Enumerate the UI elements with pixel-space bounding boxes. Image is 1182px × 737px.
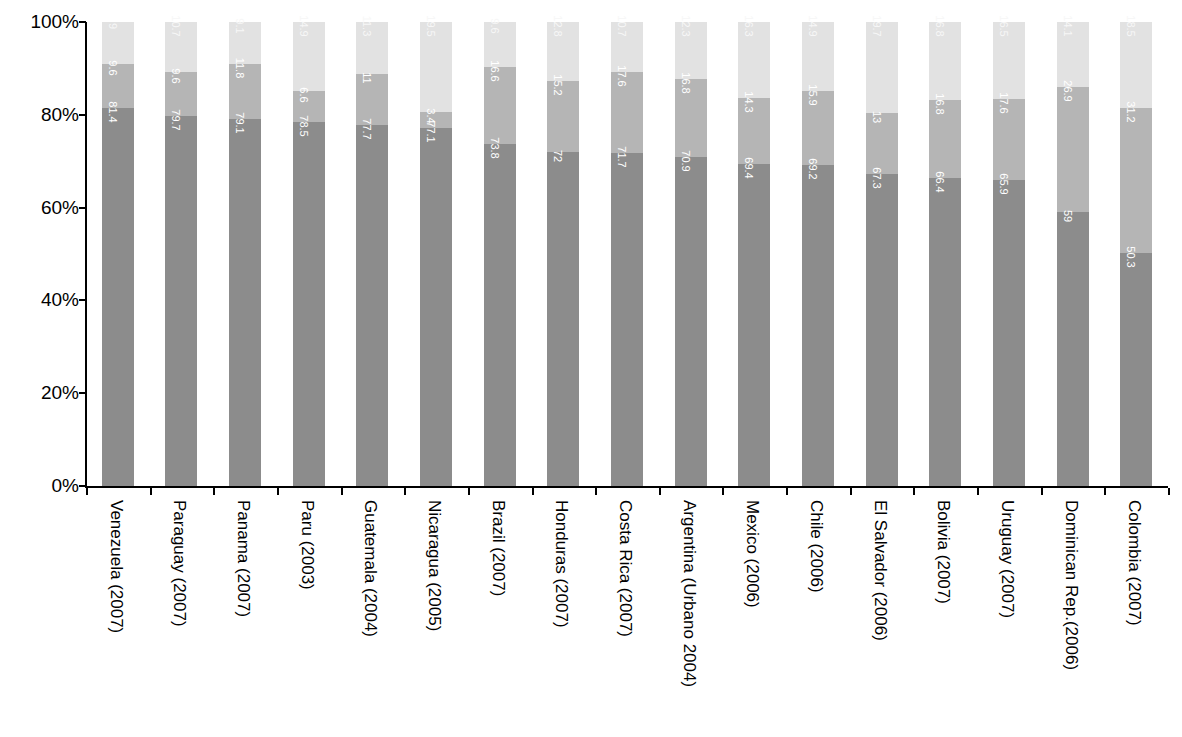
- bar-segment-value-label: 81.4: [107, 102, 118, 123]
- bar-segment[interactable]: 14.1: [1057, 22, 1089, 87]
- bar-segment[interactable]: 15.9: [802, 91, 834, 165]
- bar-9[interactable]: 10.717.671.7: [611, 22, 643, 486]
- bar-segment-value-label: 12.8: [552, 15, 563, 36]
- bar-segment[interactable]: 10.7: [165, 22, 197, 72]
- x-axis-category-label: Honduras (2007): [553, 500, 570, 628]
- bar-segment[interactable]: 14.9: [293, 22, 325, 91]
- bar-14[interactable]: 16.816.866.4: [929, 22, 961, 486]
- bar-segment[interactable]: 16.8: [929, 22, 961, 100]
- x-axis-category-label: Paraguay (2007): [171, 500, 188, 627]
- bar-12[interactable]: 14.915.969.2: [802, 22, 834, 486]
- bar-segment-value-label: 14.9: [298, 15, 309, 36]
- bar-10[interactable]: 12.316.870.9: [675, 22, 707, 486]
- bar-segment-value-label: 16.8: [934, 15, 945, 36]
- bar-segment[interactable]: 77.7: [356, 125, 388, 486]
- bar-segment-value-label: 15.9: [807, 84, 818, 105]
- x-axis-category-label: Dominican Rep.(2006): [1063, 500, 1080, 670]
- bar-segment-value-label: 73.8: [489, 137, 500, 158]
- bar-segment[interactable]: 66.4: [929, 178, 961, 486]
- x-axis-tick: [213, 488, 215, 495]
- bar-segment[interactable]: 50.3: [1120, 253, 1152, 486]
- bar-segment[interactable]: 12.3: [675, 22, 707, 79]
- bar-segment-value-label: 79.1: [234, 112, 245, 133]
- bar-segment[interactable]: 13: [866, 113, 898, 173]
- bar-segment[interactable]: 71.7: [611, 153, 643, 486]
- bar-segment[interactable]: 81.4: [102, 108, 134, 486]
- bar-segment[interactable]: 16.8: [929, 100, 961, 178]
- bar-11[interactable]: 16.314.369.4: [738, 22, 770, 486]
- bar-segment[interactable]: 65.9: [993, 180, 1025, 486]
- bar-segment-value-label: 16.5: [998, 15, 1009, 36]
- bar-segment[interactable]: 12.8: [547, 22, 579, 81]
- bar-segment-value-label: 15.2: [552, 75, 563, 96]
- bar-16[interactable]: 14.126.959: [1057, 22, 1089, 486]
- y-axis-tick: [79, 392, 86, 394]
- x-axis-tick: [468, 488, 470, 495]
- bar-segment[interactable]: 16.3: [738, 22, 770, 98]
- bar-segment-value-label: 9: [107, 23, 118, 29]
- bar-segment-value-label: 6.6: [298, 87, 309, 102]
- bar-segment[interactable]: 72: [547, 152, 579, 486]
- y-axis-tick: [79, 207, 86, 209]
- bar-segment[interactable]: 14.3: [738, 98, 770, 164]
- bar-segment-value-label: 17.6: [998, 92, 1009, 113]
- bar-segment[interactable]: 26.9: [1057, 87, 1089, 212]
- bar-segment[interactable]: 10.7: [611, 22, 643, 72]
- x-axis-tick: [977, 488, 979, 495]
- bar-segment[interactable]: 73.8: [484, 144, 516, 486]
- bar-segment-value-label: 11.8: [234, 58, 245, 79]
- bar-segment-value-label: 16.3: [743, 15, 754, 36]
- bar-segment[interactable]: 16.5: [993, 22, 1025, 99]
- y-axis-tick-label: 0%: [52, 476, 79, 495]
- bar-7[interactable]: 9.616.673.8: [484, 22, 516, 486]
- bar-segment-value-label: 17.6: [616, 65, 627, 86]
- bar-segment[interactable]: 79.1: [229, 119, 261, 486]
- x-axis-tick: [532, 488, 534, 495]
- x-axis-category-label: Uruguay (2007): [999, 500, 1016, 618]
- bar-segment-value-label: 16.8: [934, 93, 945, 114]
- bar-segment[interactable]: 16.8: [675, 79, 707, 157]
- bar-segment[interactable]: 19.5: [420, 22, 452, 112]
- x-axis-tick: [277, 488, 279, 495]
- bar-4[interactable]: 14.96.678.5: [293, 22, 325, 486]
- bar-segment-value-label: 11.3: [361, 16, 372, 37]
- bar-17[interactable]: 18.531.250.3: [1120, 22, 1152, 486]
- bar-3[interactable]: 9.111.879.1: [229, 22, 261, 486]
- bar-13[interactable]: 19.71367.3: [866, 22, 898, 486]
- bar-5[interactable]: 11.31177.7: [356, 22, 388, 486]
- bar-8[interactable]: 12.815.272: [547, 22, 579, 486]
- bar-segment-value-label: 11: [361, 73, 372, 84]
- x-axis-category-label: Paru (2003): [299, 500, 316, 590]
- bar-segment[interactable]: 19.7: [866, 22, 898, 113]
- x-axis-category-label: Mexico (2006): [744, 500, 761, 608]
- bar-2[interactable]: 10.79.679.7: [165, 22, 197, 486]
- bar-segment[interactable]: 11.3: [356, 22, 388, 74]
- bar-segment[interactable]: 67.3: [866, 174, 898, 486]
- bar-segment[interactable]: 17.6: [993, 99, 1025, 181]
- bar-segment[interactable]: 15.2: [547, 81, 579, 152]
- x-axis-tick: [786, 488, 788, 495]
- bar-segment[interactable]: 9: [102, 22, 134, 64]
- bar-segment[interactable]: 77.1: [420, 128, 452, 486]
- bar-segment-value-label: 12.3: [680, 15, 691, 36]
- bar-segment[interactable]: 79.7: [165, 116, 197, 486]
- bar-segment[interactable]: 16.6: [484, 67, 516, 144]
- bar-segment-value-label: 19.5: [425, 15, 436, 36]
- bar-segment[interactable]: 69.4: [738, 164, 770, 486]
- x-axis-category-label: El Salvador (2006): [872, 500, 889, 641]
- bar-segment[interactable]: 11.8: [229, 64, 261, 119]
- x-axis-tick: [1168, 488, 1170, 495]
- bar-6[interactable]: 19.53.477.1: [420, 22, 452, 486]
- bar-segment[interactable]: 31.2: [1120, 108, 1152, 253]
- bar-segment[interactable]: 69.2: [802, 165, 834, 486]
- bar-segment[interactable]: 70.9: [675, 157, 707, 486]
- y-axis-tick: [79, 299, 86, 301]
- bar-segment[interactable]: 18.5: [1120, 22, 1152, 108]
- bar-15[interactable]: 16.517.665.9: [993, 22, 1025, 486]
- bar-segment[interactable]: 17.6: [611, 72, 643, 154]
- bar-segment[interactable]: 59: [1057, 212, 1089, 486]
- bar-segment[interactable]: 78.5: [293, 122, 325, 486]
- bar-segment[interactable]: 14.9: [802, 22, 834, 91]
- x-axis-tick: [722, 488, 724, 495]
- bar-1[interactable]: 99.681.4: [102, 22, 134, 486]
